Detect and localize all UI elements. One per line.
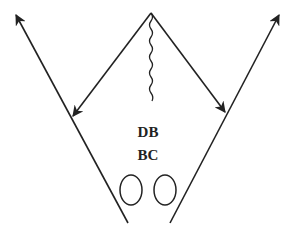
right-outer-route-arrow xyxy=(170,15,279,223)
right-inner-arrow xyxy=(151,13,225,112)
play-diagram: DB BC xyxy=(0,0,289,232)
player-left-oval xyxy=(120,175,142,205)
left-outer-route-arrow xyxy=(16,15,128,223)
label-db: DB xyxy=(128,124,168,141)
diagram-canvas xyxy=(0,0,289,232)
player-right-oval xyxy=(154,175,176,205)
label-bc: BC xyxy=(128,147,168,164)
left-inner-arrow xyxy=(73,13,151,116)
wavy-motion-line xyxy=(150,13,153,101)
